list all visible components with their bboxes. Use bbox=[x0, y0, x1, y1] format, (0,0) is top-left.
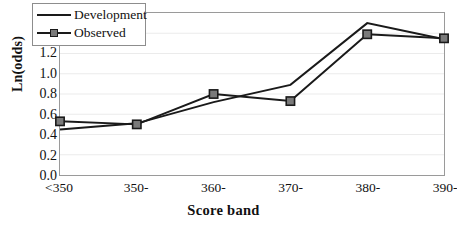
x-axis-tick-label: 350- bbox=[124, 180, 149, 195]
x-axis-tick-label: 390- bbox=[433, 180, 457, 195]
data-point-marker bbox=[56, 117, 64, 125]
y-axis-tick-label: 0.8 bbox=[27, 87, 57, 101]
y-axis-tick-label: 0.6 bbox=[27, 108, 57, 122]
legend-label: Development bbox=[71, 8, 147, 22]
x-axis-tick-label: <350 bbox=[45, 180, 73, 195]
data-point-marker bbox=[209, 90, 217, 98]
x-axis-tick-label: 380- bbox=[355, 180, 380, 195]
x-axis-tick-labels: <350350-360-370-380-390- bbox=[59, 180, 445, 198]
y-axis-tick-label: 1.2 bbox=[27, 46, 57, 60]
y-axis-tick-label: 0.2 bbox=[27, 149, 57, 163]
y-axis-tick-label: 1.0 bbox=[27, 67, 57, 81]
legend: Development Observed bbox=[32, 3, 146, 46]
x-axis-title: Score band bbox=[0, 202, 447, 219]
legend-line-icon bbox=[37, 8, 71, 22]
legend-line-marker-icon bbox=[37, 26, 71, 40]
x-axis-tick-label: 370- bbox=[278, 180, 303, 195]
x-axis-tick-label: 360- bbox=[201, 180, 226, 195]
legend-item-observed: Observed bbox=[37, 24, 141, 42]
y-axis-tick-label: 0.4 bbox=[27, 128, 57, 142]
series-line-observed bbox=[60, 34, 444, 124]
legend-label: Observed bbox=[71, 26, 126, 40]
data-point-marker bbox=[133, 120, 141, 128]
data-point-marker bbox=[363, 30, 371, 38]
legend-item-development: Development bbox=[37, 6, 141, 24]
data-point-marker bbox=[286, 97, 294, 105]
data-point-marker bbox=[440, 34, 448, 42]
